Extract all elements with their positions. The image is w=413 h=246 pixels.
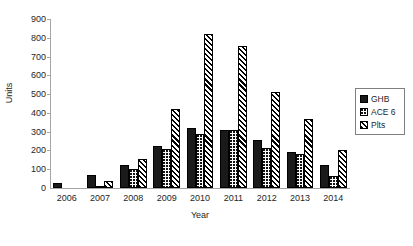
bar-plts-2010 bbox=[204, 34, 213, 188]
bar-ace6-2009 bbox=[162, 149, 171, 188]
y-tick-mark bbox=[47, 94, 50, 95]
y-axis-tick-labels: 9008007006005004003002001000 bbox=[18, 14, 46, 190]
bar-chart: Units 9008007006005004003002001000 20062… bbox=[0, 0, 413, 246]
y-tick-label: 600 bbox=[18, 70, 46, 80]
chart-legend: GHBACE 6Plts bbox=[355, 88, 405, 135]
x-axis-tick-labels: 200620072008200920102011201220132014 bbox=[50, 192, 350, 206]
legend-item-ace6[interactable]: ACE 6 bbox=[360, 105, 401, 118]
x-tick-label: 2010 bbox=[183, 192, 216, 204]
bar-plts-2007 bbox=[104, 181, 113, 189]
legend-swatch-plts-icon bbox=[360, 121, 368, 129]
y-tick-label: 0 bbox=[18, 183, 46, 193]
plot-area bbox=[50, 19, 350, 188]
legend-item-plts[interactable]: Plts bbox=[360, 118, 401, 131]
bar-plts-2009 bbox=[171, 109, 180, 188]
legend-label: Plts bbox=[371, 120, 385, 130]
bar-group-2014 bbox=[320, 19, 347, 188]
bar-plts-2011 bbox=[238, 46, 247, 188]
y-tick-mark bbox=[47, 57, 50, 58]
bar-ghb-2006 bbox=[53, 183, 62, 188]
legend-item-ghb[interactable]: GHB bbox=[360, 92, 401, 105]
y-tick-label: 200 bbox=[18, 145, 46, 155]
x-axis-line bbox=[50, 188, 350, 189]
x-axis-title: Year bbox=[50, 210, 350, 220]
y-tick-label: 700 bbox=[18, 52, 46, 62]
y-tick-mark bbox=[47, 19, 50, 20]
y-tick-mark bbox=[47, 75, 50, 76]
bar-ace6-2014 bbox=[329, 176, 338, 188]
x-tick-label: 2012 bbox=[250, 192, 283, 204]
bar-ghb-2008 bbox=[120, 165, 129, 188]
x-tick-label: 2011 bbox=[217, 192, 250, 204]
y-axis-line bbox=[50, 19, 51, 188]
x-tick-label: 2008 bbox=[117, 192, 150, 204]
bar-ace6-2012 bbox=[262, 148, 271, 188]
bar-group-2011 bbox=[220, 19, 247, 188]
bar-ace6-2013 bbox=[296, 154, 305, 188]
y-axis-title: Units bbox=[4, 70, 14, 116]
bar-plts-2013 bbox=[304, 119, 313, 188]
bar-ace6-2008 bbox=[129, 169, 138, 188]
bar-group-2006 bbox=[53, 19, 80, 188]
bar-group-2010 bbox=[187, 19, 214, 188]
bar-ace6-2007 bbox=[96, 186, 105, 188]
bar-ace6-2010 bbox=[196, 134, 205, 188]
bar-plts-2014 bbox=[338, 150, 347, 188]
x-tick-label: 2013 bbox=[283, 192, 316, 204]
x-tick-label: 2006 bbox=[50, 192, 83, 204]
bar-group-2012 bbox=[253, 19, 280, 188]
y-tick-mark bbox=[47, 132, 50, 133]
bar-ghb-2013 bbox=[287, 152, 296, 188]
y-tick-mark bbox=[47, 38, 50, 39]
bar-plts-2008 bbox=[138, 159, 147, 188]
y-tick-mark bbox=[47, 150, 50, 151]
legend-swatch-ace6-icon bbox=[360, 108, 368, 116]
bar-group-2013 bbox=[287, 19, 314, 188]
y-tick-label: 800 bbox=[18, 33, 46, 43]
legend-label: GHB bbox=[371, 94, 389, 104]
bar-ghb-2014 bbox=[320, 165, 329, 188]
legend-swatch-ghb-icon bbox=[360, 95, 368, 103]
bar-group-2009 bbox=[153, 19, 180, 188]
bar-ghb-2011 bbox=[220, 130, 229, 188]
y-tick-mark bbox=[47, 113, 50, 114]
bar-group-2008 bbox=[120, 19, 147, 188]
x-tick-label: 2014 bbox=[317, 192, 350, 204]
y-tick-mark bbox=[47, 169, 50, 170]
bar-ace6-2011 bbox=[229, 130, 238, 188]
bar-ghb-2010 bbox=[187, 128, 196, 188]
bar-ghb-2012 bbox=[253, 140, 262, 188]
bar-plts-2012 bbox=[271, 92, 280, 188]
y-tick-label: 100 bbox=[18, 164, 46, 174]
x-tick-label: 2007 bbox=[83, 192, 116, 204]
y-tick-label: 400 bbox=[18, 108, 46, 118]
x-tick-label: 2009 bbox=[150, 192, 183, 204]
y-tick-label: 500 bbox=[18, 89, 46, 99]
y-tick-label: 900 bbox=[18, 14, 46, 24]
bar-ghb-2009 bbox=[153, 146, 162, 188]
legend-label: ACE 6 bbox=[371, 107, 396, 117]
bar-ghb-2007 bbox=[87, 175, 96, 188]
bar-group-2007 bbox=[87, 19, 114, 188]
y-tick-label: 300 bbox=[18, 127, 46, 137]
